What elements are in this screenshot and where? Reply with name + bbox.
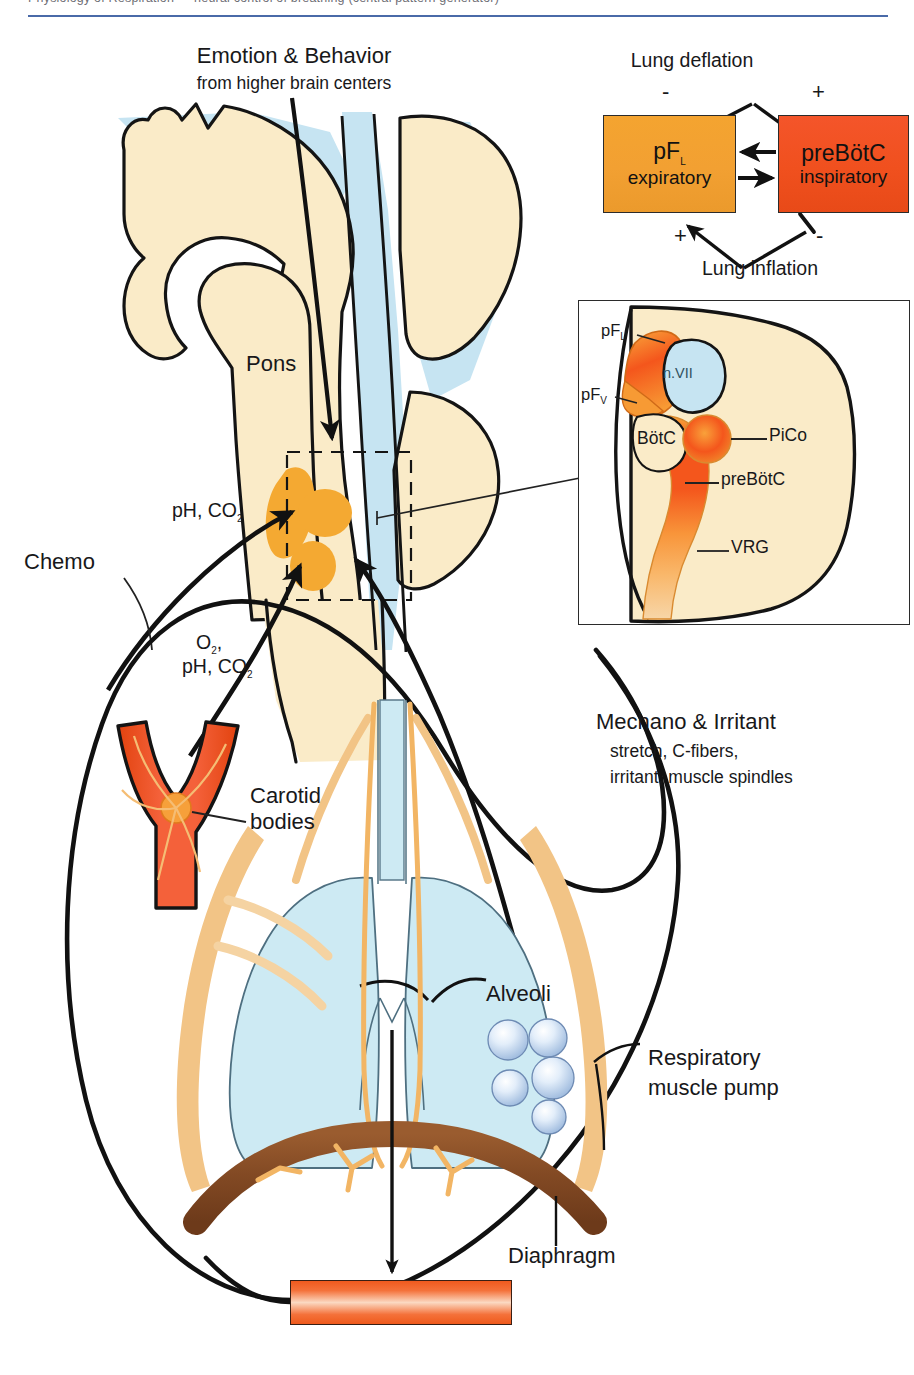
medulla-outline-right: [382, 600, 385, 766]
medullary-column-blob: [266, 467, 315, 558]
carotid-body-node: [161, 793, 191, 823]
central-chemo-label: pH, CO2: [172, 500, 243, 524]
medulla-region: [262, 600, 386, 762]
emotion-behavior-subtitle: from higher brain centers: [197, 74, 392, 94]
peripheral-chemo-label-line2: pH, CO2: [182, 656, 253, 680]
inset-label-pfl: pFL: [601, 321, 626, 342]
inflation-minus-sign: -: [816, 224, 823, 249]
resp-pump-label-line1: Respiratory: [648, 1046, 760, 1071]
diaphragm-label: Diaphragm: [508, 1244, 616, 1269]
block-prebotc-role: inspiratory: [800, 167, 888, 188]
chest-wall-left: [177, 826, 264, 1192]
anatomy-vector-layer: [0, 0, 914, 1375]
mechano-irritant-title: Mechano & Irritant: [596, 710, 776, 735]
alveoli-cluster: [488, 1019, 574, 1134]
mechano-irritant-line1: stretch, C-fibers,: [610, 742, 738, 762]
carina-notch: [380, 998, 404, 1022]
carotid-body-leader: [192, 812, 246, 822]
figure-canvas: Physiology of Respiration — neural contr…: [0, 0, 914, 1375]
alveoli-label: Alveoli: [486, 982, 551, 1007]
inset-label-pico: PiCo: [769, 426, 807, 446]
respiratory-muscle-pump: [177, 704, 640, 1192]
alveolus: [529, 1019, 567, 1057]
lung-deflation-label: Lung deflation: [631, 50, 754, 72]
feedback-loop-outline: [67, 601, 664, 1300]
prebotc-blob: [298, 489, 352, 537]
deflation-plus-sign: +: [812, 80, 825, 105]
inflation-plus-sign: +: [674, 224, 687, 249]
aqueduct-border-right: [374, 114, 406, 652]
block-prebotc-inspiratory[interactable]: preBötC inspiratory: [778, 115, 909, 213]
lung-inflation-label: Lung inflation: [702, 258, 818, 280]
header-running-title: Physiology of Respiration — neural contr…: [28, 0, 499, 5]
diaphragm-group: [196, 1134, 594, 1246]
block-pfl-expiratory[interactable]: pFL expiratory: [603, 115, 736, 213]
intercostal-band-right: [416, 718, 488, 880]
deflation-minus-sign: -: [662, 80, 669, 105]
mechano-irritant-line2: irritant, muscle spindles: [610, 768, 793, 788]
pons-region: [199, 264, 324, 620]
block-pfl-name: pFL: [653, 139, 685, 167]
inset-label-vrg: VRG: [731, 538, 769, 558]
inset-label-nvii: n.VII: [663, 365, 693, 381]
chemo-label: Chemo: [24, 550, 95, 575]
inset-leader-line: [377, 478, 580, 518]
emotion-behavior-arrow: [292, 98, 332, 438]
trachea: [380, 700, 404, 880]
pico-blob: [290, 541, 336, 591]
ventricle-fill-upper: [118, 112, 352, 240]
inset-label-botc: BötC: [637, 429, 676, 449]
aqueduct-border-left: [342, 116, 376, 650]
inset-pico-nucleus: [683, 415, 731, 463]
header-divider-rule: [28, 15, 888, 17]
fourth-ventricle-fill: [342, 112, 404, 650]
cerebellum-lobe: [400, 116, 521, 359]
carotid-vessel: [118, 722, 238, 908]
phrenic-nerve-left: [364, 704, 382, 1166]
peripheral-chemo-label-line1: O2,: [196, 632, 222, 656]
diaphragm-motor-endings: [258, 1146, 472, 1194]
right-lung: [405, 878, 554, 1168]
emotion-behavior-title: Emotion & Behavior: [197, 44, 391, 69]
inset-label-pfv: pFV: [581, 385, 607, 406]
inset-label-prebotc: preBötC: [721, 470, 785, 490]
alveolus: [492, 1070, 528, 1106]
chemo-bracket-arc: [124, 578, 152, 650]
rib-band-2: [218, 946, 322, 1006]
pump-leader: [594, 1044, 640, 1062]
carotid-bodies-label-line1: Carotid: [250, 784, 321, 809]
callout-dashed-box: [287, 452, 411, 600]
block-prebotc-name: preBötC: [801, 141, 885, 166]
alveolus: [532, 1057, 574, 1099]
brain-tissue-body: [123, 104, 362, 642]
spinal-cord-motor-output-bar: [290, 1280, 512, 1325]
diaphragm-dome: [196, 1134, 594, 1222]
bronchus-left: [360, 998, 380, 1110]
medulla-outline-left: [266, 600, 296, 762]
carotid-nerve-fibers: [122, 736, 226, 880]
block-pfl-subscript: L: [680, 156, 686, 167]
rib-band-1: [228, 900, 328, 956]
alveolus: [532, 1100, 566, 1134]
bronchus-right: [404, 998, 424, 1110]
inset-vector: [579, 301, 909, 624]
pump-leader-2: [596, 1064, 604, 1150]
alveoli-leader: [360, 981, 428, 1000]
carotid-bodies-label-line2: bodies: [250, 810, 315, 835]
cerebellum-ventricle-fill: [406, 120, 500, 400]
pons-label: Pons: [246, 352, 296, 377]
block-diagram-connectors: [0, 0, 914, 1375]
brainstem-inset-panel[interactable]: pFL pFV n.VII BötC PiCo preBötC VRG: [578, 300, 910, 625]
left-lung: [230, 878, 379, 1168]
inflation-inhibit-bar: [800, 214, 814, 232]
block-pfl-role: expiratory: [628, 168, 711, 189]
cerebellum-lower-lobe: [394, 392, 499, 589]
phrenic-nerve-right: [402, 704, 420, 1166]
loop-tail-to-cord: [206, 1258, 290, 1302]
lungs-group: [230, 700, 574, 1168]
resp-pump-label-line2: muscle pump: [648, 1076, 779, 1101]
alveoli-leader-2: [432, 979, 486, 1002]
chest-wall-right: [520, 826, 607, 1192]
page-header: Physiology of Respiration — neural contr…: [0, 0, 914, 26]
carotid-artery-bifurcation: [118, 722, 246, 908]
